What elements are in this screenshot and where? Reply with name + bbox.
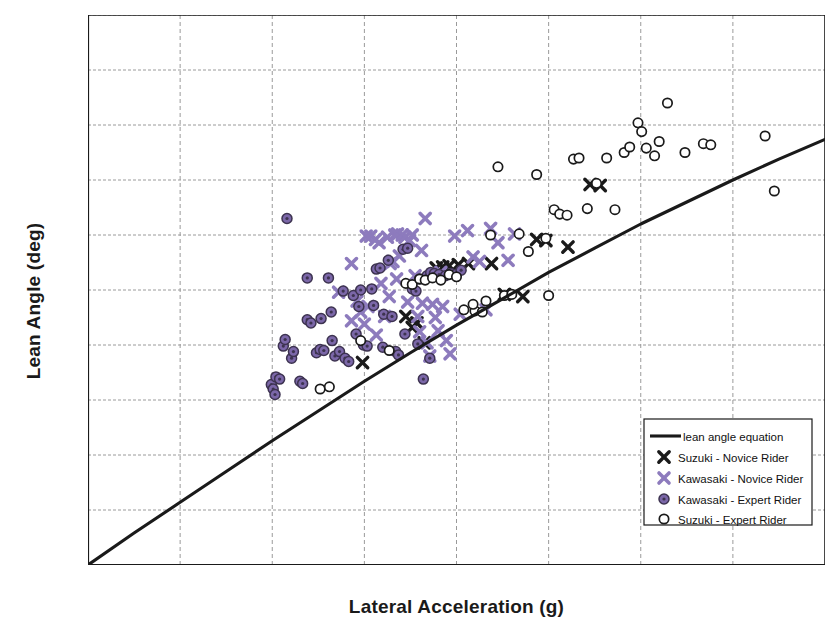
- point-kawasaki-novice: [493, 238, 503, 248]
- legend-label: Kawasaki - Expert Rider: [678, 494, 802, 506]
- point-kawasaki-expert-center: [403, 332, 406, 335]
- point-kawasaki-novice: [416, 245, 426, 255]
- point-kawasaki-expert-center: [382, 313, 385, 316]
- legend-marker-suzuki-expert: [659, 514, 668, 523]
- point-kawasaki-expert-center: [406, 247, 409, 250]
- point-kawasaki-expert-center: [330, 310, 333, 313]
- point-suzuki-novice: [401, 311, 411, 321]
- legend-label: Kawasaki - Novice Rider: [678, 473, 803, 485]
- point-kawasaki-expert-center: [372, 304, 375, 307]
- point-kawasaki-expert-center: [273, 393, 276, 396]
- point-suzuki-expert: [325, 382, 334, 391]
- point-kawasaki-expert-center: [331, 339, 334, 342]
- point-kawasaki-novice: [384, 292, 394, 302]
- point-kawasaki-expert-center: [342, 290, 345, 293]
- chart-svg: 051015202530354045500.00.10.20.30.40.50.…: [88, 15, 825, 565]
- point-kawasaki-novice: [420, 214, 430, 224]
- point-kawasaki-expert-center: [322, 349, 325, 352]
- point-kawasaki-expert-center: [428, 357, 431, 360]
- point-suzuki-expert: [514, 229, 523, 238]
- series-cross-black: [357, 179, 605, 368]
- point-kawasaki-expert-center: [460, 269, 463, 272]
- point-suzuki-expert: [493, 162, 502, 171]
- point-suzuki-novice: [357, 357, 367, 367]
- legend: lean angle equationSuzuki - Novice Rider…: [644, 419, 812, 526]
- point-kawasaki-expert-center: [278, 378, 281, 381]
- point-suzuki-expert: [544, 291, 553, 300]
- legend-label: lean angle equation: [683, 431, 783, 443]
- point-kawasaki-novice: [359, 319, 369, 329]
- point-kawasaki-expert-center: [327, 276, 330, 279]
- point-kawasaki-novice: [430, 313, 440, 323]
- point-suzuki-expert: [706, 140, 715, 149]
- point-kawasaki-novice: [346, 259, 356, 269]
- point-suzuki-expert: [486, 230, 495, 239]
- point-suzuki-expert: [637, 127, 646, 136]
- point-kawasaki-novice: [376, 278, 386, 288]
- legend-label: Suzuki - Novice Rider: [678, 452, 789, 464]
- point-kawasaki-expert-center: [359, 288, 362, 291]
- y-axis-title: Lean Angle (deg): [23, 171, 45, 431]
- point-suzuki-expert: [532, 170, 541, 179]
- point-kawasaki-expert-center: [284, 338, 287, 341]
- point-kawasaki-expert-center: [301, 382, 304, 385]
- point-suzuki-expert: [356, 336, 365, 345]
- point-suzuki-expert: [315, 384, 324, 393]
- point-suzuki-expert: [583, 204, 592, 213]
- point-kawasaki-expert-center: [422, 378, 425, 381]
- point-kawasaki-expert-center: [306, 276, 309, 279]
- point-suzuki-novice: [518, 291, 528, 301]
- legend-label: Suzuki - Expert Rider: [678, 514, 787, 526]
- point-suzuki-expert: [602, 153, 611, 162]
- point-kawasaki-expert-center: [354, 332, 357, 335]
- point-kawasaki-novice: [463, 226, 473, 236]
- point-kawasaki-expert-center: [414, 290, 417, 293]
- point-kawasaki-expert-center: [338, 350, 341, 353]
- point-kawasaki-novice: [503, 255, 513, 265]
- point-suzuki-expert: [592, 179, 601, 188]
- point-kawasaki-novice: [403, 297, 413, 307]
- point-kawasaki-expert-center: [352, 294, 355, 297]
- point-kawasaki-expert-center: [370, 287, 373, 290]
- point-suzuki-expert: [459, 305, 468, 314]
- point-kawasaki-expert-center: [366, 345, 369, 348]
- point-suzuki-novice: [486, 258, 496, 268]
- chart-root: Lean Angle (deg) Lateral Acceleration (g…: [0, 0, 834, 624]
- point-kawasaki-expert-center: [292, 350, 295, 353]
- point-kawasaki-expert-center: [357, 305, 360, 308]
- point-suzuki-expert: [680, 148, 689, 157]
- point-suzuki-expert: [625, 142, 634, 151]
- point-kawasaki-expert-center: [397, 353, 400, 356]
- point-kawasaki-expert-center: [285, 217, 288, 220]
- point-kawasaki-novice: [450, 231, 460, 241]
- point-kawasaki-expert-center: [390, 315, 393, 318]
- point-suzuki-expert: [654, 137, 663, 146]
- point-kawasaki-expert-center: [387, 259, 390, 262]
- point-suzuki-expert: [481, 296, 490, 305]
- point-kawasaki-novice: [441, 336, 451, 346]
- point-kawasaki-expert-center: [319, 317, 322, 320]
- point-suzuki-expert: [770, 186, 779, 195]
- point-suzuki-expert: [760, 131, 769, 140]
- point-suzuki-expert: [452, 272, 461, 281]
- plot-area: 051015202530354045500.00.10.20.30.40.50.…: [88, 15, 825, 565]
- point-suzuki-expert: [650, 151, 659, 160]
- point-suzuki-expert: [642, 143, 651, 152]
- point-suzuki-expert: [574, 153, 583, 162]
- x-axis-title: Lateral Acceleration (g): [88, 596, 825, 618]
- point-kawasaki-expert-center: [381, 346, 384, 349]
- point-kawasaki-novice: [438, 302, 448, 312]
- point-kawasaki-expert-center: [309, 321, 312, 324]
- point-kawasaki-novice: [392, 274, 402, 284]
- point-kawasaki-expert-center: [416, 342, 419, 345]
- point-kawasaki-expert-center: [378, 266, 381, 269]
- point-suzuki-novice: [563, 242, 573, 252]
- point-kawasaki-novice: [445, 349, 455, 359]
- point-kawasaki-novice: [371, 330, 381, 340]
- legend-marker-kawasaki-expert-center: [662, 497, 665, 500]
- point-suzuki-expert: [610, 205, 619, 214]
- point-suzuki-expert: [541, 234, 550, 243]
- point-suzuki-expert: [385, 346, 394, 355]
- point-suzuki-expert: [562, 211, 571, 220]
- point-kawasaki-expert-center: [347, 360, 350, 363]
